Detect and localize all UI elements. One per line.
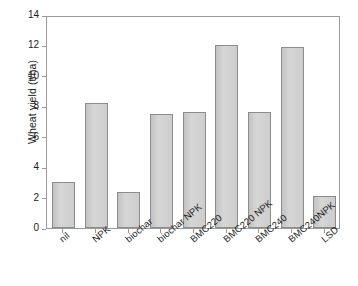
y-tick-label: 8: [33, 100, 39, 111]
bar: [150, 114, 173, 228]
bar: [215, 45, 238, 228]
plot-area: [46, 16, 340, 229]
bar: [52, 182, 75, 228]
x-tick-label: nil: [57, 230, 72, 245]
y-tick-label: 14: [28, 9, 39, 20]
y-tick-label: 4: [33, 161, 39, 172]
y-tick-label: 12: [28, 39, 39, 50]
bar: [85, 103, 108, 228]
bar: [117, 192, 140, 229]
y-tick-label: 0: [33, 222, 39, 233]
y-tick-label: 10: [28, 70, 39, 81]
y-tick-label: 2: [33, 192, 39, 203]
wheat-yield-bar-chart: Wheat yield (t/ha) 02468101214 nilNPKbio…: [0, 0, 358, 286]
y-tick-label: 6: [33, 131, 39, 142]
bar: [281, 47, 304, 228]
